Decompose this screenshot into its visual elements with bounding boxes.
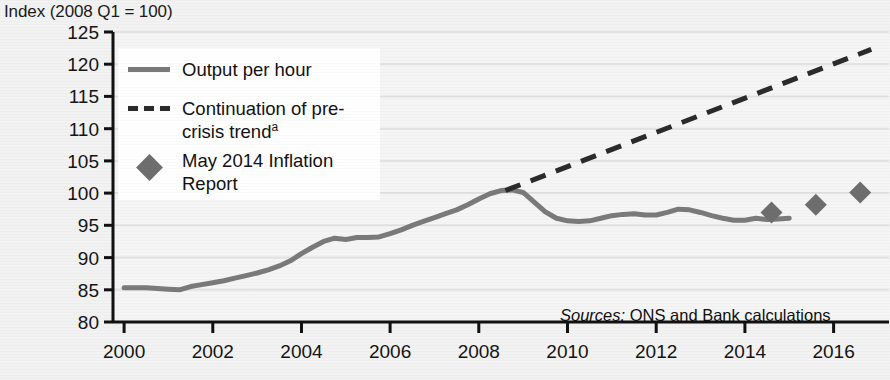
- footnote-marker-a: a: [271, 120, 278, 134]
- x-axis-tick-label: 2000: [103, 341, 145, 362]
- x-axis-tick-label: 2016: [812, 341, 854, 362]
- y-axis-tick-label: 80: [78, 312, 99, 333]
- y-axis-tick-label: 120: [67, 54, 99, 75]
- chart-figure: Index (2008 Q1 = 100) 808590951001051101…: [0, 0, 890, 380]
- legend-label-output-per-hour: Output per hour: [180, 58, 312, 81]
- legend-item-may-2014-ir: May 2014 Inflation Report: [118, 149, 380, 195]
- sources-label: Sources:: [560, 306, 625, 324]
- y-axis-tick-label: 105: [67, 151, 99, 172]
- y-axis-tick-label: 100: [67, 183, 99, 204]
- legend-label-pre-crisis-trend-text: Continuation of pre-crisis trend: [182, 98, 345, 142]
- sources-note: Sources: ONS and Bank calculations: [560, 306, 831, 325]
- y-axis-tick-label: 110: [69, 119, 99, 140]
- legend-item-pre-crisis-trend: Continuation of pre-crisis trenda: [118, 97, 380, 143]
- y-axis-tick-label: 125: [67, 22, 99, 43]
- y-axis-tick-label: 85: [78, 280, 99, 301]
- chart-legend: Output per hour Continuation of pre-cris…: [118, 48, 380, 200]
- y-axis-tick-label: 95: [78, 215, 99, 236]
- x-axis-ticks: 200020022004200620082010201220142016: [103, 322, 855, 362]
- diamond-marker-key-icon: [118, 149, 180, 177]
- legend-label-may-2014-ir: May 2014 Inflation Report: [180, 149, 380, 195]
- x-axis-tick-label: 2014: [724, 341, 767, 362]
- sources-text: ONS and Bank calculations: [625, 306, 830, 324]
- x-axis-tick-label: 2006: [369, 341, 411, 362]
- x-axis-tick-label: 2004: [280, 341, 323, 362]
- y-axis-ticks: 80859095100105110115120125: [67, 22, 113, 333]
- y-axis-tick-label: 90: [78, 248, 99, 269]
- x-axis-tick-label: 2008: [458, 341, 500, 362]
- legend-item-output-per-hour: Output per hour: [118, 58, 380, 81]
- solid-line-key-icon: [118, 58, 180, 72]
- x-axis-tick-label: 2002: [192, 341, 234, 362]
- x-axis-tick-label: 2012: [635, 341, 677, 362]
- y-axis-tick-label: 115: [69, 86, 99, 107]
- x-axis-tick-label: 2010: [546, 341, 588, 362]
- legend-label-pre-crisis-trend: Continuation of pre-crisis trenda: [180, 97, 380, 143]
- dashed-line-key-icon: [118, 97, 180, 111]
